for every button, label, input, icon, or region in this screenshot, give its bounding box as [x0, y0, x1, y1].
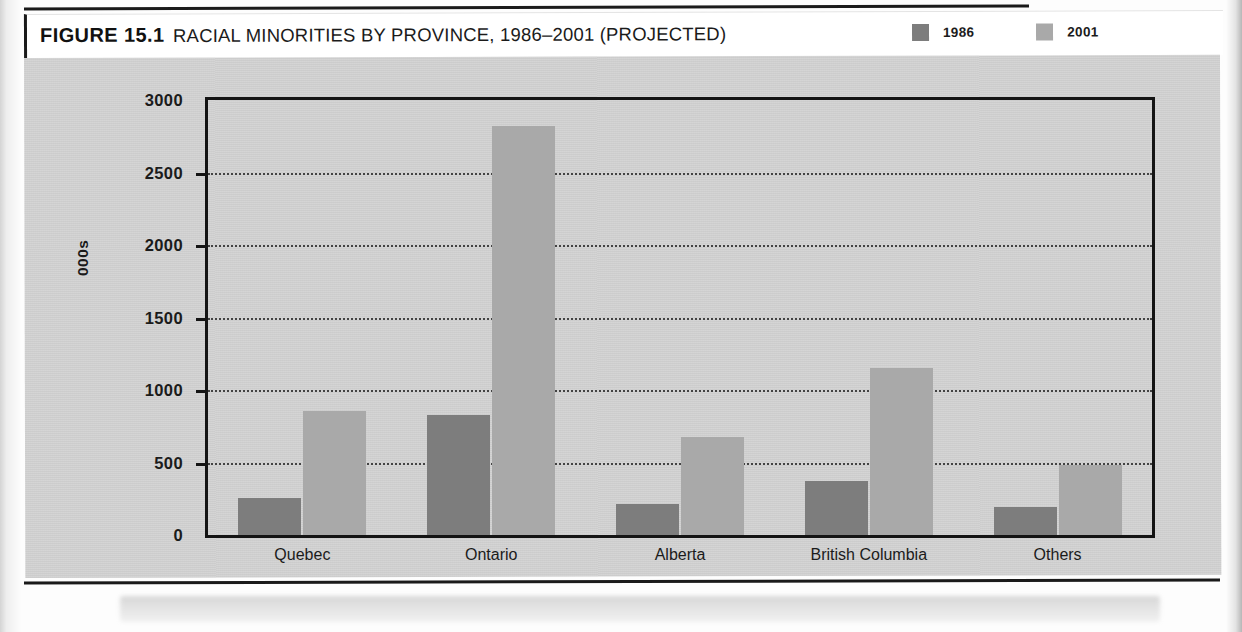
legend-swatch-1986	[912, 24, 929, 41]
bar-ontario-2001	[492, 126, 555, 535]
legend-swatch-2001	[1036, 24, 1053, 41]
plot-area	[205, 97, 1155, 538]
gridline-1500	[208, 318, 1152, 320]
x-tick-label-others: Others	[1034, 546, 1082, 564]
bar-group-british-columbia	[805, 368, 933, 535]
gridline-2000	[208, 245, 1152, 247]
y-tick-2500	[196, 173, 208, 176]
chart-legend: 1986 2001	[912, 23, 1099, 41]
figure-label: FIGURE 15.1	[40, 24, 165, 47]
y-tick-label-0: 0	[173, 526, 183, 545]
bar-alberta-2001	[681, 437, 744, 535]
bar-others-2001	[1059, 465, 1122, 535]
figure-top-rule	[24, 4, 1029, 10]
legend-item-2001: 2001	[1036, 23, 1098, 40]
bar-others-1986	[994, 507, 1057, 535]
x-tick-label-british-columbia: British Columbia	[811, 546, 927, 564]
y-tick-1500	[196, 318, 208, 321]
x-tick-label-quebec: Quebec	[274, 546, 330, 564]
left-page-edge	[0, 0, 22, 632]
y-tick-1000	[196, 390, 208, 393]
gridline-1000	[208, 390, 1152, 392]
bar-alberta-1986	[616, 504, 679, 535]
bar-ontario-1986	[427, 415, 490, 535]
bar-british-columbia-2001	[870, 368, 933, 535]
legend-item-1986: 1986	[912, 24, 974, 41]
y-tick-label-2500: 2500	[145, 163, 183, 182]
gridline-2500	[208, 173, 1152, 175]
scanned-page: FIGURE 15.1 RACIAL MINORITIES BY PROVINC…	[0, 0, 1242, 632]
bar-group-ontario	[427, 126, 555, 535]
right-page-edge	[1226, 0, 1242, 632]
bar-british-columbia-1986	[805, 481, 868, 535]
bar-group-others	[994, 465, 1122, 535]
y-tick-label-2000: 2000	[145, 236, 183, 255]
y-axis-title: 000s	[74, 240, 92, 276]
page-caption-smudge	[120, 596, 1160, 622]
y-tick-label-1000: 1000	[145, 381, 183, 400]
y-tick-label-1500: 1500	[145, 308, 183, 327]
legend-label-1986: 1986	[943, 25, 974, 40]
y-tick-label-3000: 3000	[145, 91, 183, 110]
figure-title: RACIAL MINORITIES BY PROVINCE, 1986–2001…	[173, 23, 726, 47]
y-tick-label-500: 500	[154, 453, 183, 472]
y-tick-2000	[196, 245, 208, 248]
bar-group-quebec	[238, 411, 366, 535]
figure-bottom-rule	[24, 578, 1220, 584]
x-tick-label-alberta: Alberta	[655, 546, 706, 564]
x-tick-label-ontario: Ontario	[465, 546, 517, 564]
y-tick-500	[196, 463, 208, 466]
legend-label-2001: 2001	[1067, 24, 1098, 39]
bar-quebec-1986	[238, 498, 301, 535]
bar-quebec-2001	[303, 411, 366, 535]
bar-group-alberta	[616, 437, 744, 535]
